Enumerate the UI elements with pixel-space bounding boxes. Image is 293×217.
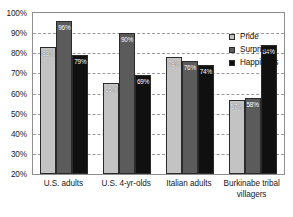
legend-label: Surprise	[240, 45, 270, 54]
bar-group: 78%76%74%	[159, 13, 222, 174]
x-axis-category-label: Italian adults	[158, 179, 221, 190]
bar-value-label: 65%	[104, 86, 118, 93]
bar-group: 83%96%79%	[33, 13, 96, 174]
bar-happiness[interactable]: 79%	[72, 55, 88, 174]
legend-item-pride[interactable]: Pride	[229, 30, 293, 43]
y-axis-tick-label: 20%	[11, 170, 27, 179]
bar-value-label: 74%	[199, 68, 213, 75]
bar-surprise[interactable]: 76%	[182, 61, 198, 174]
x-axis: U.S. adultsU.S. 4-yr-oldsItalian adultsB…	[32, 179, 285, 215]
bar-chart-figure: 100%90%80%70%60%50%40%30%20% 83%96%79%65…	[0, 0, 293, 217]
legend-item-surprise[interactable]: Surprise	[229, 43, 293, 56]
legend-label: Pride	[240, 32, 259, 41]
legend: PrideSurpriseHappiness	[229, 30, 293, 69]
legend-swatch-surprise	[229, 47, 235, 53]
legend-label: Happiness	[240, 58, 278, 67]
bar-value-label: 79%	[73, 58, 87, 65]
y-axis-tick-label: 80%	[11, 49, 27, 58]
bar-value-label: 90%	[120, 36, 134, 43]
bar-value-label: 76%	[183, 64, 197, 71]
y-axis-tick-label: 50%	[11, 109, 27, 118]
y-axis-tick-label: 60%	[11, 89, 27, 98]
bar-value-label: 83%	[41, 50, 55, 57]
x-axis-category-label: U.S. 4-yr-olds	[95, 179, 158, 190]
legend-swatch-happiness	[229, 60, 235, 66]
bar-group: 65%90%69%	[96, 13, 159, 174]
legend-item-happiness[interactable]: Happiness	[229, 56, 293, 69]
bar-value-label: 58%	[246, 101, 260, 108]
bar-pride[interactable]: 65%	[103, 83, 119, 174]
x-axis-category-label: Burkinabe tribalvillagers	[220, 179, 283, 200]
bar-value-label: 78%	[167, 60, 181, 67]
bar-value-label: 96%	[57, 24, 71, 31]
bar-surprise[interactable]: 90%	[119, 33, 135, 174]
bar-value-label: 57%	[230, 103, 244, 110]
bar-happiness[interactable]: 69%	[135, 75, 151, 174]
x-axis-category-label: U.S. adults	[32, 179, 95, 190]
y-axis-tick-label: 70%	[11, 69, 27, 78]
legend-swatch-pride	[229, 34, 235, 40]
bar-surprise[interactable]: 96%	[56, 21, 72, 174]
plot-area: 83%96%79%65%90%69%78%76%74%57%58%84% Pri…	[32, 12, 285, 175]
bar-pride[interactable]: 83%	[40, 47, 56, 174]
bar-pride[interactable]: 57%	[229, 100, 245, 174]
bar-happiness[interactable]: 74%	[198, 65, 214, 174]
bar-pride[interactable]: 78%	[166, 57, 182, 174]
y-axis-tick-label: 40%	[11, 129, 27, 138]
y-axis-tick-label: 30%	[11, 149, 27, 158]
y-axis-tick-label: 100%	[6, 9, 27, 18]
bar-surprise[interactable]: 58%	[245, 98, 261, 174]
y-axis-tick-label: 90%	[11, 29, 27, 38]
bar-value-label: 69%	[136, 78, 150, 85]
y-axis: 100%90%80%70%60%50%40%30%20%	[0, 12, 30, 175]
